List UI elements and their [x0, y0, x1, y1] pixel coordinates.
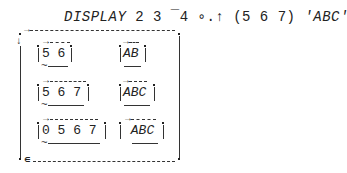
corner-dot — [178, 33, 180, 35]
command-keyword: DISPLAY — [64, 9, 126, 25]
corner-dot — [19, 158, 21, 160]
numeric-value: 5 6 — [42, 46, 65, 61]
command-string: 'ABC' — [304, 9, 347, 25]
command-args: 2 3 ¯4 ∘.↑ (5 6 7) — [135, 9, 304, 25]
numeric-value: 5 6 7 — [42, 85, 81, 100]
down-arrow-icon: ↓ — [16, 37, 22, 47]
character-value: ABC — [123, 85, 146, 100]
outer-bottom-border — [33, 161, 175, 162]
outer-top-border — [30, 30, 175, 31]
display-command: DISPLAY 2 3 ¯4 ∘.↑ (5 6 7) 'ABC' — [64, 8, 347, 25]
corner-dot — [178, 158, 180, 160]
tilde-icon: ~ — [41, 101, 48, 109]
corner-dot — [19, 33, 21, 35]
nested-epsilon-icon: ∊ — [24, 153, 31, 166]
outer-left-border — [20, 46, 21, 158]
tilde-icon: ~ — [41, 62, 48, 70]
character-value: AB — [123, 46, 139, 61]
character-value: ABC — [123, 123, 154, 138]
numeric-value: 0 5 6 7 — [42, 123, 97, 138]
tilde-icon: ~ — [41, 139, 48, 147]
outer-right-border — [179, 36, 180, 158]
